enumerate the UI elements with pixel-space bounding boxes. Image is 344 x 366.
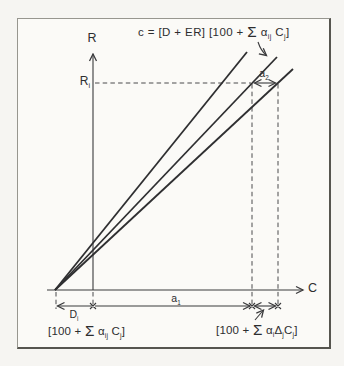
- calibration-lines: [55, 52, 293, 290]
- middle-calibration-line: [55, 57, 277, 290]
- bottom-left-formula: [100 + Σ αij Cj]: [48, 325, 125, 338]
- bottom-right-formula: [100 + Σ αiΔjCj]: [216, 324, 298, 337]
- equation-pointer-arrow: [258, 42, 267, 56]
- flat-calibration-line: [55, 69, 293, 290]
- equation-label: c = [D + ER] [100 + Σ αij Cj]: [138, 26, 290, 39]
- formula-pointer-arrow: [255, 310, 264, 320]
- a2-label: a2: [259, 68, 268, 80]
- y-axis-label: R: [87, 32, 96, 46]
- x-axis-label: C: [308, 282, 317, 296]
- a1-label: a1: [171, 293, 180, 305]
- di-label: Di: [70, 309, 79, 321]
- dashed-construction-lines: [56, 83, 278, 309]
- figure-canvas: [0, 0, 344, 366]
- ri-tick-label: Ri: [80, 75, 90, 88]
- figure-page: c = [D + ER] [100 + Σ αij Cj] R Ri a2 C …: [0, 0, 344, 366]
- axes: [47, 54, 303, 290]
